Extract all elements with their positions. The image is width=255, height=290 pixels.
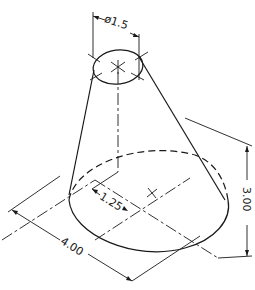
offset-dimension: 1.25	[92, 172, 128, 214]
height-dimension: 3.00	[185, 118, 253, 258]
offset-label: 1.25	[97, 190, 125, 214]
top-diameter-label: ø1.5	[103, 12, 130, 32]
cone-drawing: ø1.5 1.25 4.00	[0, 0, 255, 290]
top-diameter-dimension: ø1.5	[93, 12, 139, 80]
height-label: 3.00	[240, 187, 253, 212]
cone-sides	[69, 57, 225, 200]
base-width-label: 4.00	[58, 235, 86, 259]
